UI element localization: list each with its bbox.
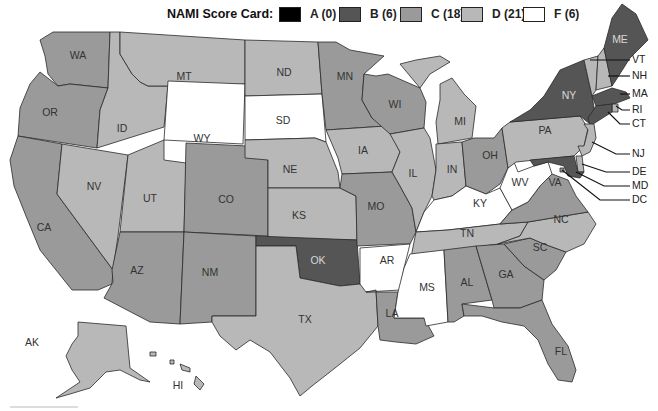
label-or: OR bbox=[42, 106, 58, 118]
label-ca: CA bbox=[37, 221, 52, 233]
label-mt: MT bbox=[176, 70, 192, 82]
label-la: LA bbox=[386, 307, 399, 319]
label-wa: WA bbox=[70, 49, 87, 61]
callout-dc: DC bbox=[632, 193, 648, 205]
label-wy: WY bbox=[194, 132, 211, 144]
label-ky: KY bbox=[473, 197, 487, 209]
label-az: AZ bbox=[130, 264, 144, 276]
callout-nh: NH bbox=[632, 69, 647, 81]
state-ks[interactable] bbox=[268, 188, 357, 240]
label-nc: NC bbox=[553, 213, 569, 225]
label-al: AL bbox=[461, 276, 474, 288]
label-tx: TX bbox=[298, 313, 311, 325]
label-ms: MS bbox=[419, 281, 435, 293]
label-in: IN bbox=[447, 163, 458, 175]
label-ok: OK bbox=[310, 254, 325, 266]
label-ks: KS bbox=[292, 209, 306, 221]
callout-vt: VT bbox=[632, 53, 646, 65]
label-mo: MO bbox=[368, 200, 385, 212]
label-oh: OH bbox=[482, 149, 498, 161]
label-wi: WI bbox=[389, 98, 402, 110]
us-map: WA OR CA ID NV MT WY UT CO AZ NM ND SD N… bbox=[0, 0, 658, 411]
label-tn: TN bbox=[460, 227, 474, 239]
label-il: IL bbox=[409, 167, 418, 179]
callout-ri: RI bbox=[632, 103, 643, 115]
state-fl[interactable] bbox=[462, 300, 576, 382]
callout-nj: NJ bbox=[632, 147, 645, 159]
footer-divider bbox=[10, 406, 78, 408]
callout-de: DE bbox=[632, 165, 647, 177]
state-ut[interactable] bbox=[120, 140, 186, 232]
label-wv: WV bbox=[512, 176, 529, 188]
state-ma[interactable] bbox=[592, 88, 630, 106]
label-ak: AK bbox=[25, 336, 39, 348]
label-ga: GA bbox=[498, 268, 513, 280]
label-hi: HI bbox=[173, 379, 184, 391]
callout-ct: CT bbox=[632, 117, 647, 129]
label-ny: NY bbox=[562, 89, 577, 101]
label-id: ID bbox=[117, 122, 128, 134]
callout-md: MD bbox=[632, 179, 649, 191]
state-ri[interactable] bbox=[612, 104, 618, 112]
label-nm: NM bbox=[202, 266, 218, 278]
state-nm[interactable] bbox=[180, 232, 256, 324]
label-me: ME bbox=[612, 33, 628, 45]
label-mn: MN bbox=[337, 70, 353, 82]
label-sc: SC bbox=[533, 241, 548, 253]
state-ny[interactable] bbox=[510, 60, 596, 124]
label-va: VA bbox=[548, 176, 561, 188]
label-fl: FL bbox=[555, 345, 567, 357]
label-pa: PA bbox=[538, 124, 551, 136]
label-sd: SD bbox=[276, 114, 291, 126]
label-ar: AR bbox=[380, 254, 395, 266]
label-nv: NV bbox=[87, 180, 102, 192]
label-ia: IA bbox=[358, 144, 368, 156]
label-mi: MI bbox=[454, 115, 466, 127]
label-ut: UT bbox=[143, 192, 158, 204]
label-ne: NE bbox=[283, 163, 298, 175]
label-co: CO bbox=[218, 193, 234, 205]
label-nd: ND bbox=[276, 66, 292, 78]
callout-ma: MA bbox=[632, 87, 648, 99]
state-ak[interactable] bbox=[56, 322, 150, 398]
